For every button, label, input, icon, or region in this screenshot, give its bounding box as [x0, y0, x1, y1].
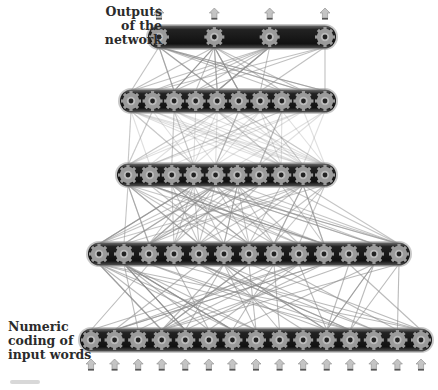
gear-icon: [143, 91, 163, 111]
gear-icon: [289, 244, 309, 264]
gear-icon: [199, 330, 219, 350]
input-arrow-icon: [275, 359, 285, 371]
gear-icon: [314, 244, 334, 264]
gear-icon: [250, 91, 270, 111]
connection-line: [131, 47, 159, 91]
connection-line: [99, 264, 162, 330]
gear-icon: [89, 244, 109, 264]
gear-icon: [387, 330, 407, 350]
input-arrow-icon: [180, 359, 190, 371]
gear-icon: [186, 91, 206, 111]
inputs-label-line-2: coding of: [8, 334, 91, 348]
outputs-label-line-2: of the: [96, 19, 162, 33]
input-arrow-icon: [204, 359, 214, 371]
gear-icon: [204, 27, 224, 47]
hidden-layer-2: [115, 162, 338, 188]
gear-icon: [246, 330, 266, 350]
gear-icon: [260, 27, 280, 47]
input-arrow-icon: [157, 359, 167, 371]
input-arrow-icon: [227, 359, 237, 371]
input-arrow-icon: [251, 359, 261, 371]
gear-icon: [315, 165, 335, 185]
input-arrow-icon: [298, 359, 308, 371]
output-arrow-icon: [265, 8, 275, 20]
connection-line: [162, 264, 399, 330]
inputs-label: Numeric coding of input words: [8, 320, 91, 362]
gear-icon: [206, 165, 226, 185]
input-arrow-icon: [133, 359, 143, 371]
connection-line: [259, 111, 325, 165]
gear-icon: [114, 244, 134, 264]
gear-icon: [152, 330, 172, 350]
gear-icon: [162, 165, 182, 185]
figure-caption: [10, 380, 40, 384]
hidden-layer-3: [118, 88, 338, 114]
output-arrow-icon: [320, 8, 330, 20]
output-arrow-icon: [209, 8, 219, 20]
layer-bar: [148, 26, 336, 49]
gear-icon: [270, 330, 290, 350]
gear-icon: [293, 165, 313, 185]
gear-icon: [214, 244, 234, 264]
gear-icon: [364, 330, 384, 350]
input-arrow-icon: [110, 359, 120, 371]
gear-icon: [227, 165, 247, 185]
connection-line: [397, 264, 399, 330]
gear-icon: [189, 244, 209, 264]
gear-icon: [339, 244, 359, 264]
connection-line: [281, 111, 282, 165]
inputs-label-line-3: input words: [8, 348, 91, 362]
connection-line: [260, 47, 325, 91]
gear-icon: [175, 330, 195, 350]
gear-icon: [118, 165, 138, 185]
gear-icon: [271, 165, 291, 185]
input-arrow-icon: [322, 359, 332, 371]
gear-icon: [207, 91, 227, 111]
gear-icon: [264, 244, 284, 264]
gear-icon: [293, 330, 313, 350]
gear-icon: [411, 330, 431, 350]
connection-line: [327, 264, 349, 330]
connection-line: [194, 185, 374, 244]
gear-icon: [315, 91, 335, 111]
gear-icon: [121, 91, 141, 111]
gear-icon: [317, 330, 337, 350]
gear-icon: [364, 244, 384, 264]
outputs-label: Outputs of the network: [96, 5, 162, 47]
gear-icon: [293, 91, 313, 111]
gear-icon: [229, 91, 249, 111]
gear-icon: [249, 165, 269, 185]
output-layer: [146, 24, 338, 50]
hidden-layer-1: [86, 241, 412, 267]
connection-line: [115, 264, 199, 330]
gear-icon: [389, 244, 409, 264]
gear-icon: [164, 244, 184, 264]
input-arrow-icon: [416, 359, 426, 371]
gear-icon: [222, 330, 242, 350]
gear-icon: [128, 330, 148, 350]
gear-icon: [315, 27, 335, 47]
gear-icon: [140, 165, 160, 185]
connection-line: [174, 264, 421, 330]
connection-line: [99, 185, 237, 244]
inputs-label-line-1: Numeric: [8, 320, 91, 334]
outputs-label-line-3: network: [96, 33, 162, 47]
input-arrow-icon: [345, 359, 355, 371]
gear-icon: [340, 330, 360, 350]
gear-icon: [105, 330, 125, 350]
input-arrow-icon: [369, 359, 379, 371]
gear-icon: [139, 244, 159, 264]
connection-line: [124, 185, 128, 244]
gear-icon: [164, 91, 184, 111]
input-layer: [78, 327, 434, 353]
gear-icon: [272, 91, 292, 111]
outputs-label-line-1: Outputs: [96, 5, 162, 19]
gear-icon: [239, 244, 259, 264]
gear-icon: [184, 165, 204, 185]
input-arrow-icon: [392, 359, 402, 371]
connection-line: [128, 111, 131, 165]
